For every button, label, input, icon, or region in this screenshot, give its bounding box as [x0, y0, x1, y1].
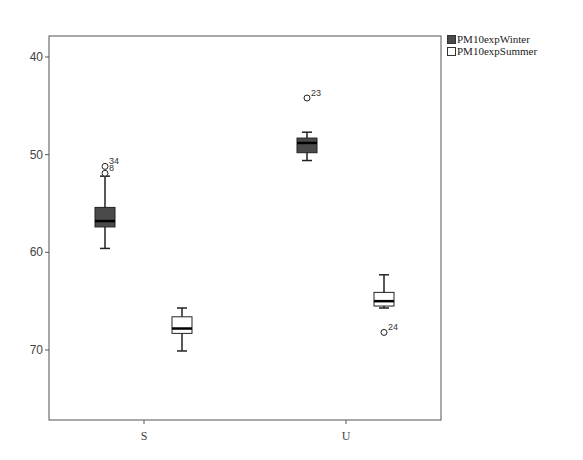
- outlier-marker: [102, 170, 108, 176]
- summer-swatch-icon: [447, 47, 456, 56]
- boxplot-chart: 70605040 SU 3482324: [0, 0, 583, 460]
- legend-item-summer: PM10expSummer: [447, 45, 537, 57]
- legend: PM10expWinter PM10expSummer: [447, 33, 537, 57]
- box-PM10expSummer-S: [172, 308, 192, 351]
- boxes: 3482324: [95, 88, 398, 351]
- y-tick-label: 40: [30, 50, 44, 64]
- outlier-marker: [381, 329, 387, 335]
- box-PM10expSummer-U: 24: [374, 275, 398, 336]
- y-tick-label: 70: [30, 343, 44, 357]
- outlier-marker: [304, 95, 310, 101]
- box-PM10expWinter-U: 23: [297, 88, 321, 161]
- y-tick-label: 60: [30, 245, 44, 259]
- outlier-marker: [102, 163, 108, 169]
- winter-swatch-icon: [447, 35, 456, 44]
- plot-frame: [49, 36, 441, 420]
- legend-item-winter: PM10expWinter: [447, 33, 537, 45]
- outlier-label: 8: [109, 163, 114, 173]
- x-tick-label: U: [342, 429, 351, 443]
- outlier-label: 24: [388, 322, 398, 332]
- outlier-label: 23: [311, 88, 321, 98]
- y-axis: 70605040: [30, 50, 49, 357]
- x-axis: SU: [141, 420, 351, 443]
- y-tick-label: 50: [30, 148, 44, 162]
- x-tick-label: S: [141, 429, 148, 443]
- legend-label-summer: PM10expSummer: [457, 45, 537, 57]
- box-PM10expWinter-S: 348: [95, 156, 119, 248]
- legend-label-winter: PM10expWinter: [457, 33, 530, 45]
